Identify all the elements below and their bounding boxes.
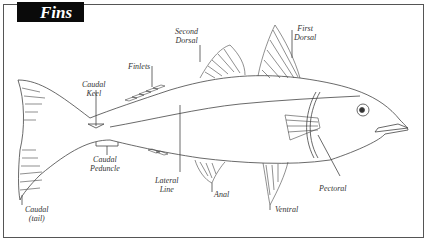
caudal-rays (20, 88, 45, 190)
second-dorsal-fin (200, 45, 245, 78)
label-caudal-keel: CaudalKeel (82, 80, 106, 98)
fish-illustration (0, 0, 429, 243)
label-ventral: Ventral (275, 205, 298, 214)
ventral-fin (263, 162, 288, 205)
anal-fin (195, 160, 225, 183)
fins-diagram: Fins (0, 0, 429, 243)
label-caudal-tail: Caudal(tail) (25, 205, 49, 223)
label-first-dorsal: FirstDorsal (294, 24, 316, 42)
fish-body-outline (18, 76, 408, 200)
label-second-dorsal: SecondDorsal (175, 27, 198, 45)
lateral-line-path (110, 96, 360, 127)
label-finlets: Finlets (128, 62, 150, 71)
label-anal: Anal (214, 190, 229, 199)
label-caudal-peduncle: CaudalPeduncle (90, 155, 120, 173)
label-lateral-line: LateralLine (155, 176, 179, 194)
label-pectoral: Pectoral (319, 184, 347, 193)
pectoral-fin (285, 115, 320, 140)
